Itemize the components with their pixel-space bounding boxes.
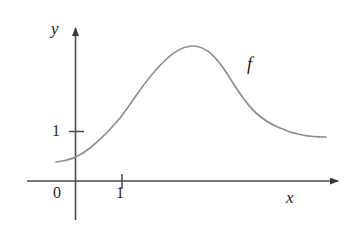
x-tick-label-1: 1 [116, 185, 124, 201]
y-axis-label: y [51, 20, 59, 37]
origin-label: 0 [53, 185, 61, 201]
x-axis-label: x [286, 189, 294, 206]
function-curve-f [56, 46, 326, 162]
y-tick-label-1: 1 [52, 123, 60, 139]
function-graph-figure: y x f 0 1 1 [0, 0, 357, 234]
curve-label-f: f [247, 55, 252, 73]
